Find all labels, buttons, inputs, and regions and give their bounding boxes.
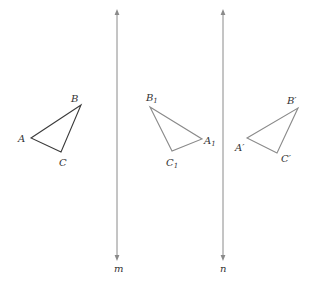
vertex-label: C′ bbox=[281, 153, 292, 164]
vertex-label: C1 bbox=[166, 157, 178, 170]
triangle-shape bbox=[247, 108, 298, 153]
vertex-label: B′ bbox=[286, 95, 297, 106]
triangle-shape bbox=[31, 105, 81, 152]
vertex-label: B1 bbox=[145, 92, 158, 105]
vertex-label: A′ bbox=[234, 142, 245, 153]
vertex-label: A bbox=[17, 133, 25, 144]
vertex-label: A1 bbox=[203, 135, 216, 148]
vertex-label: C bbox=[59, 157, 67, 168]
diagram-svg: mn ABCB1A1C1B′A′C′ bbox=[0, 0, 310, 282]
line-label-m: m bbox=[114, 263, 123, 274]
triangle-A'B'C': B′A′C′ bbox=[234, 95, 298, 164]
line-label-n: n bbox=[220, 263, 226, 274]
triangle-shape bbox=[150, 107, 202, 151]
vertex-label: B bbox=[70, 93, 78, 104]
triangles: ABCB1A1C1B′A′C′ bbox=[17, 92, 298, 170]
triangle-ABC: ABC bbox=[17, 93, 81, 168]
triangle-A1B1C1: B1A1C1 bbox=[145, 92, 216, 170]
reflection-diagram: mn ABCB1A1C1B′A′C′ bbox=[0, 0, 310, 282]
